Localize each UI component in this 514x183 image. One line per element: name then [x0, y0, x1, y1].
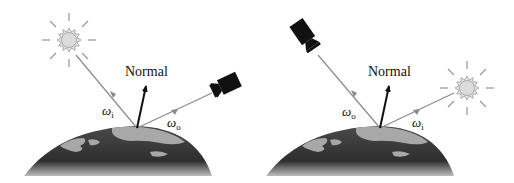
normal-label-left: Normal	[125, 65, 168, 79]
sun-icon	[440, 61, 494, 115]
omega-symbol: ω	[167, 115, 176, 130]
camera-icon	[209, 72, 242, 99]
brdf-reciprocity-figure: Normal ωi ωo Normal ωo ωi	[0, 0, 514, 183]
omega-outgoing-label-left: ωo	[167, 116, 181, 132]
omega-subscript: o	[176, 122, 181, 132]
right-panel	[266, 18, 494, 176]
camera-icon	[289, 18, 320, 53]
normal-arrow	[137, 86, 146, 128]
omega-incoming-label-left: ωi	[102, 104, 114, 120]
omega-symbol: ω	[412, 115, 421, 130]
left-panel	[24, 13, 242, 176]
omega-incoming-label-right: ωi	[412, 116, 424, 132]
earth-icon	[24, 126, 212, 176]
normal-label-right: Normal	[368, 65, 411, 79]
omega-subscript: i	[421, 122, 424, 132]
normal-arrow	[380, 86, 389, 128]
outgoing-ray-arrow-icon	[351, 90, 357, 97]
earth-icon	[266, 126, 454, 176]
omega-outgoing-label-right: ωo	[342, 105, 356, 121]
omega-symbol: ω	[342, 104, 351, 119]
figure-canvas	[0, 0, 514, 183]
sun-icon	[42, 13, 96, 67]
omega-symbol: ω	[102, 103, 111, 118]
omega-subscript: o	[351, 111, 356, 121]
omega-subscript: i	[111, 110, 114, 120]
